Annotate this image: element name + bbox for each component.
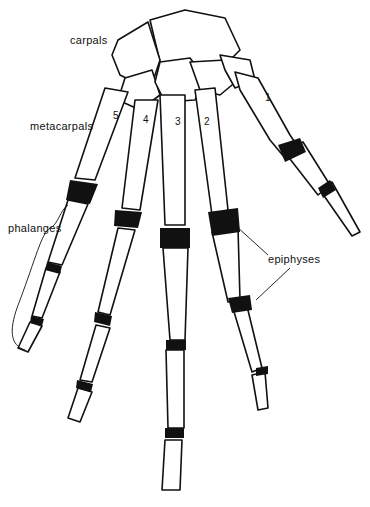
label-carpals: carpals xyxy=(70,34,108,46)
metacarpal-number-4: 4 xyxy=(143,114,149,125)
metacarpal-number-3: 3 xyxy=(175,116,181,127)
epiphyses-leader-upper xyxy=(235,225,268,255)
metacarpal-number-1: 1 xyxy=(265,92,271,103)
epiphyses-leader-lower xyxy=(256,268,290,300)
label-epiphyses: epiphyses xyxy=(268,253,320,265)
metacarpal-number-2: 2 xyxy=(204,116,210,127)
metacarpal-number-5: 5 xyxy=(113,110,119,121)
label-metacarpals: metacarpals xyxy=(30,120,93,132)
hand-skeleton-diagram: carpals metacarpals phalanges epiphyses … xyxy=(0,0,370,507)
label-phalanges: phalanges xyxy=(8,222,61,234)
